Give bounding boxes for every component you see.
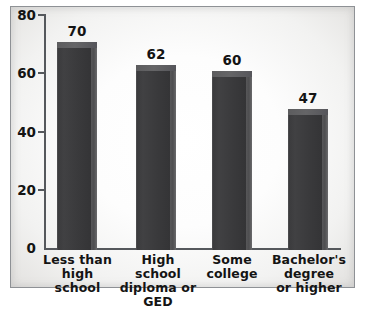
x-category-label-less-than-high-school: Less than high school: [41, 253, 114, 295]
cat-line-2: diploma or GED: [118, 281, 198, 309]
x-category-label-some-college: Some college: [200, 253, 264, 281]
y-tick-label-60: 60: [6, 67, 36, 81]
y-tick-label-0: 0: [6, 242, 36, 256]
y-tick-label-40: 40: [6, 126, 36, 140]
cat-line-2: high school: [41, 267, 114, 295]
bar-value-label: 70: [50, 25, 104, 39]
bar-value-label: 47: [281, 92, 335, 106]
cat-line-2: college: [200, 267, 264, 281]
x-category-label-bachelors-degree: Bachelor's degree or higher: [263, 253, 355, 295]
bar-value-label: 62: [129, 48, 183, 62]
bar-less-than-high-school[interactable]: [57, 42, 97, 250]
y-tick-60: [38, 72, 45, 74]
cat-line-2: or higher: [263, 281, 355, 295]
cat-line-1: Some: [200, 253, 264, 267]
x-category-label-high-school-diploma: High school diploma or GED: [118, 253, 198, 309]
y-tick-20: [38, 189, 45, 191]
bar-some-college[interactable]: [212, 71, 252, 250]
bar-side-face: [169, 71, 176, 250]
bar-side-face: [321, 115, 328, 250]
y-tick-40: [38, 131, 45, 133]
y-tick-80: [38, 14, 45, 16]
cat-line-1: Bachelor's degree: [263, 253, 355, 281]
bar-value-label: 60: [205, 54, 259, 68]
y-tick-label-80: 80: [6, 9, 36, 23]
bar-side-face: [90, 48, 97, 250]
y-tick-label-20: 20: [6, 184, 36, 198]
bar-high-school-diploma[interactable]: [136, 65, 176, 250]
bar-front-face: [288, 115, 322, 250]
bar-front-face: [136, 71, 170, 250]
bar-front-face: [57, 48, 91, 250]
bar-bachelors-degree[interactable]: [288, 109, 328, 250]
cat-line-1: High school: [118, 253, 198, 281]
bar-front-face: [212, 77, 246, 250]
bar-side-face: [245, 77, 252, 250]
cat-line-1: Less than: [41, 253, 114, 267]
